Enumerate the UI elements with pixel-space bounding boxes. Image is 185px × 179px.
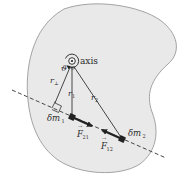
svg-text:δm: δm (128, 128, 141, 138)
angle-label: ϑ (61, 64, 67, 73)
svg-text:1: 1 (62, 118, 65, 124)
svg-text:12: 12 (107, 146, 113, 152)
svg-text:2: 2 (95, 97, 98, 103)
svg-text:1: 1 (72, 93, 75, 99)
axis-label: axis (80, 56, 98, 66)
axis-dot-icon (71, 60, 73, 62)
rigid-body-diagram: axis ϑ r ⊥ r 1 r 2 δm 1 δm 2 → F 21 → F … (0, 0, 185, 179)
svg-text:⊥: ⊥ (54, 80, 59, 86)
svg-text:2: 2 (143, 133, 146, 139)
svg-text:δm: δm (47, 113, 60, 123)
svg-text:21: 21 (83, 134, 89, 140)
